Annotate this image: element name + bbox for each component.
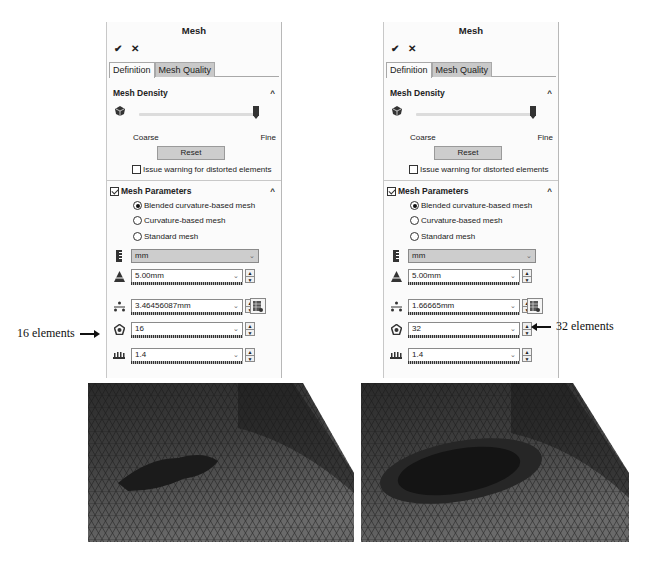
ok-check-icon[interactable]: ✔ — [391, 43, 399, 54]
coarse-label: Coarse — [410, 133, 436, 142]
mesh-parameters-header[interactable]: Mesh Parameters ^ — [110, 186, 275, 196]
chevron-down-icon: ⌄ — [249, 250, 255, 262]
arrow-right-icon — [80, 333, 98, 335]
tab-bar: Definition Mesh Quality — [386, 62, 556, 77]
cancel-x-icon[interactable]: ✕ — [408, 43, 416, 54]
mesh-density-slider-track[interactable] — [416, 113, 531, 116]
mesh-parameters-heading: Mesh Parameters — [121, 186, 191, 196]
collapse-caret-icon[interactable]: ^ — [547, 89, 552, 98]
distorted-warning-label: Issue warning for distorted elements — [143, 165, 272, 174]
coarse-label: Coarse — [133, 133, 159, 142]
table-settings-button[interactable] — [527, 298, 543, 314]
distorted-warning-label: Issue warning for distorted elements — [420, 165, 549, 174]
mesh-density-slider-thumb[interactable] — [253, 106, 259, 119]
collapse-caret-icon[interactable]: ^ — [547, 187, 552, 196]
max-element-size-input[interactable]: 5.00mm⌄ — [131, 269, 243, 283]
radio-blended-curvature[interactable]: Blended curvature-based mesh — [410, 201, 532, 210]
unit-select[interactable]: mm⌄ — [131, 249, 259, 263]
max-element-size-input[interactable]: 5.00mm⌄ — [408, 269, 520, 283]
distorted-warning-checkbox[interactable] — [132, 165, 141, 174]
tab-bar: Definition Mesh Quality — [109, 62, 279, 77]
tab-mesh-quality[interactable]: Mesh Quality — [432, 62, 493, 77]
mesh-density-heading: Mesh Density — [113, 88, 168, 98]
mesh-render-32-elements — [361, 383, 629, 542]
growth-ratio-spinner[interactable]: ▲▼ — [522, 348, 532, 362]
distorted-warning-option[interactable]: Issue warning for distorted elements — [132, 165, 272, 174]
collapse-caret-icon[interactable]: ^ — [270, 187, 275, 196]
radio-blended-curvature[interactable]: Blended curvature-based mesh — [133, 201, 255, 210]
min-elements-in-circle-input[interactable]: 16⌄ — [131, 322, 243, 336]
tab-definition[interactable]: Definition — [109, 62, 155, 78]
mesh-parameters-checkbox[interactable] — [110, 187, 119, 196]
mesh-density-heading: Mesh Density — [390, 88, 445, 98]
annotation-16-elements: 16 elements — [17, 326, 98, 341]
growth-ratio-icon — [113, 349, 125, 361]
min-elements-in-circle-spinner[interactable]: ▲▼ — [245, 322, 255, 336]
distorted-warning-checkbox[interactable] — [409, 165, 418, 174]
max-element-size-spinner[interactable]: ▲▼ — [522, 269, 532, 283]
min-elements-in-circle-icon — [390, 323, 402, 335]
reset-button[interactable]: Reset — [434, 146, 502, 160]
panel-title: Mesh — [384, 25, 558, 36]
section-divider — [107, 180, 281, 181]
growth-ratio-input[interactable]: 1.4⌄ — [408, 348, 520, 362]
mesh-density-slider-track[interactable] — [139, 113, 254, 116]
min-element-size-input[interactable]: 3.46456087mm⌄ — [131, 299, 243, 313]
reset-button[interactable]: Reset — [157, 146, 225, 160]
min-elements-in-circle-icon — [113, 323, 125, 335]
tab-mesh-quality[interactable]: Mesh Quality — [155, 62, 216, 77]
mesh-render-16-elements — [88, 383, 354, 542]
panel-title: Mesh — [107, 25, 281, 36]
mesh-parameters-checkbox[interactable] — [387, 187, 396, 196]
mesh-density-header[interactable]: Mesh Density ^ — [390, 88, 552, 98]
radio-standard[interactable]: Standard mesh — [410, 232, 475, 241]
section-divider — [384, 180, 558, 181]
min-element-size-icon — [113, 300, 125, 312]
min-element-size-input[interactable]: 1.66665mm⌄ — [408, 299, 520, 313]
unit-select[interactable]: mm⌄ — [408, 249, 536, 263]
mesh-parameters-header[interactable]: Mesh Parameters ^ — [387, 186, 552, 196]
table-settings-button[interactable] — [250, 298, 266, 314]
min-element-size-icon — [390, 300, 402, 312]
max-element-size-spinner[interactable]: ▲▼ — [245, 269, 255, 283]
radio-standard[interactable]: Standard mesh — [133, 232, 198, 241]
cancel-x-icon[interactable]: ✕ — [131, 43, 139, 54]
fine-label: Fine — [260, 133, 276, 142]
unit-ruler-icon — [390, 250, 402, 262]
thumbwheel — [131, 282, 243, 285]
mesh-parameters-heading: Mesh Parameters — [398, 186, 468, 196]
growth-ratio-input[interactable]: 1.4⌄ — [131, 348, 243, 362]
mesh-density-slider-thumb[interactable] — [530, 106, 536, 119]
annotation-32-elements: 32 elements — [533, 319, 614, 334]
distorted-warning-option[interactable]: Issue warning for distorted elements — [409, 165, 549, 174]
mesh-density-icon — [115, 106, 125, 116]
collapse-caret-icon[interactable]: ^ — [270, 89, 275, 98]
mesh-density-icon — [392, 106, 402, 116]
max-element-size-icon — [113, 270, 125, 282]
unit-ruler-icon — [113, 250, 125, 262]
max-element-size-icon — [390, 270, 402, 282]
chevron-down-icon: ⌄ — [526, 250, 532, 262]
radio-curvature-based[interactable]: Curvature-based mesh — [410, 216, 502, 225]
tab-definition[interactable]: Definition — [386, 62, 432, 78]
fine-label: Fine — [537, 133, 553, 142]
growth-ratio-icon — [390, 349, 402, 361]
min-elements-in-circle-input[interactable]: 32⌄ — [408, 322, 520, 336]
arrow-left-icon — [533, 326, 551, 328]
mesh-density-header[interactable]: Mesh Density ^ — [113, 88, 275, 98]
radio-curvature-based[interactable]: Curvature-based mesh — [133, 216, 225, 225]
ok-check-icon[interactable]: ✔ — [114, 43, 122, 54]
mesh-property-panel-left: Mesh ✔ ✕ Definition Mesh Quality Mesh De… — [106, 22, 282, 378]
growth-ratio-spinner[interactable]: ▲▼ — [245, 348, 255, 362]
